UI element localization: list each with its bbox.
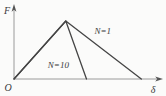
curve-label-n10: N=10: [47, 60, 70, 70]
force-deflection-figure: F O δ N=1 N=10: [0, 0, 166, 96]
curve-label-n1: N=1: [94, 26, 112, 36]
origin-label: O: [4, 82, 11, 93]
chart-canvas: F O δ N=1 N=10: [0, 0, 166, 96]
curve-n10: [14, 21, 87, 79]
y-axis-label: F: [3, 5, 11, 16]
curve-n1: [14, 21, 141, 79]
x-axis-label: δ: [151, 84, 156, 95]
